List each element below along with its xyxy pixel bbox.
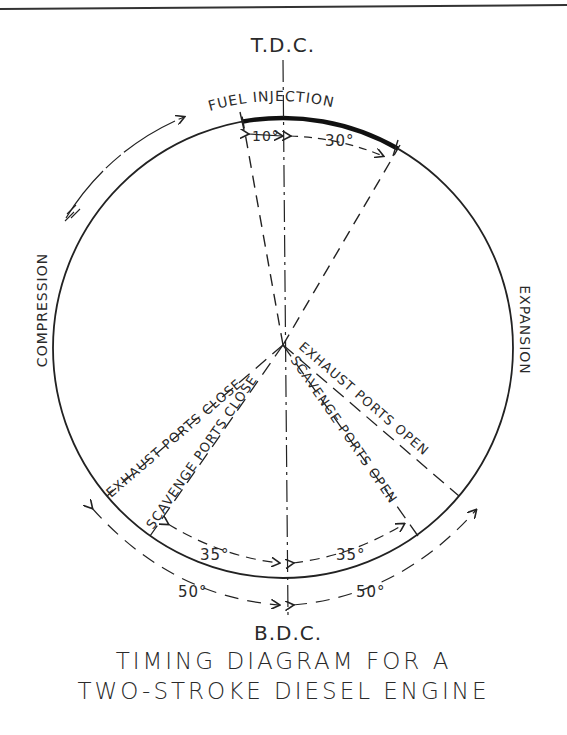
caption-line-1: TIMING DIAGRAM FOR A [0,648,567,674]
tdc-label: T.D.C. [250,33,315,57]
caption-line-2: TWO-STROKE DIESEL ENGINE [0,678,567,704]
scavenge-right-angle: 35° [336,546,366,564]
injection-start-line [242,116,283,345]
injection-end-line [283,145,400,345]
exhaust-left-angle: 50° [178,583,208,601]
fuel-before-label: 10° [252,128,280,144]
fuel-injection-label: FUEL INJECTION [206,88,336,114]
crank-circle [53,118,513,578]
top-rule [0,5,567,9]
timing-diagram: T.D.C. B.D.C. FUEL INJECTION 10° 30° COM… [0,0,567,735]
exhaust-right-angle: 50° [356,583,386,601]
compression-label: COMPRESSION [34,253,50,367]
expansion-label: EXPANSION [517,285,533,375]
rotation-arrow [66,117,184,218]
scavenge-left-angle: 35° [200,546,230,564]
hatch [67,205,76,214]
bdc-label: B.D.C. [254,621,322,645]
fuel-after-label: 30° [325,132,355,150]
